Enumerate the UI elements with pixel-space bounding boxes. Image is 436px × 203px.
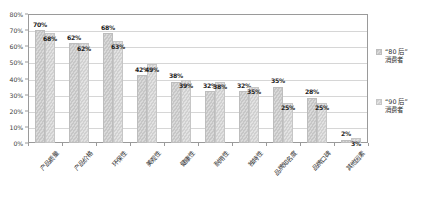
bar-value-label: 35% [271, 77, 285, 84]
bar-value-label: 49% [145, 66, 159, 73]
bar-value-label: 38% [213, 83, 227, 90]
bar-value-label: 38% [169, 72, 183, 79]
bar-80hou[interactable] [35, 30, 45, 143]
legend-entry-80hou[interactable]: “80 后” 消费者 [376, 48, 408, 64]
bar-value-label: 68% [43, 35, 57, 42]
bar-group: 2%3% [334, 14, 368, 143]
y-tick-label: 10% [10, 123, 23, 130]
bar-90hou[interactable] [215, 82, 225, 143]
x-axis-label: 独特性 [246, 149, 265, 168]
bar-90hou[interactable] [181, 80, 191, 143]
x-tick-mark [164, 143, 165, 146]
legend-swatch-icon [376, 49, 382, 55]
bar-value-label: 68% [101, 24, 115, 31]
x-tick-mark [96, 143, 97, 146]
bar-group: 70%68% [28, 14, 62, 143]
bar-group: 62%62% [62, 14, 96, 143]
bar-value-label: 62% [67, 34, 81, 41]
bar-group: 28%25% [300, 14, 334, 143]
x-axis-label: 其他因素 [344, 149, 367, 173]
bar-80hou[interactable] [171, 82, 181, 143]
bar-value-label: 25% [315, 104, 329, 111]
x-axis-label: 品牌口碑 [310, 149, 333, 173]
bar-group: 68%63% [96, 14, 130, 143]
y-tick-label: 70% [10, 27, 23, 34]
bar-group: 35%25% [266, 14, 300, 143]
bar-value-label: 62% [77, 45, 91, 52]
legend-label: “90 后” 消费者 [385, 98, 408, 114]
x-tick-mark [300, 143, 301, 146]
bar-group: 32%38% [198, 14, 232, 143]
x-tick-mark [266, 143, 267, 146]
bar-90hou[interactable] [45, 33, 55, 143]
bar-value-label: 35% [247, 88, 261, 95]
x-tick-mark [62, 143, 63, 146]
bar-90hou[interactable] [147, 64, 157, 143]
bar-group: 42%49% [130, 14, 164, 143]
x-axis-label: 环保性 [110, 149, 129, 168]
legend-label: “80 后” 消费者 [385, 48, 408, 64]
bar-value-label: 28% [305, 88, 319, 95]
x-axis-label: 美观性 [144, 149, 163, 168]
y-tick-label: 0% [13, 140, 23, 147]
bar-90hou[interactable] [113, 41, 123, 143]
x-tick-mark [198, 143, 199, 146]
bars-layer: 70%68%62%62%68%63%42%49%38%39%32%38%32%3… [28, 14, 368, 143]
y-tick-label: 30% [10, 91, 23, 98]
bar-value-label: 2% [341, 130, 351, 137]
x-axis-label: 健康性 [178, 149, 197, 168]
legend-entry-90hou[interactable]: “90 后” 消费者 [376, 98, 408, 114]
bar-group: 38%39% [164, 14, 198, 143]
y-tick-label: 80% [10, 11, 23, 18]
chart-legend: “80 后” 消费者“90 后” 消费者 [376, 14, 436, 143]
x-axis-label: 品牌知名度 [272, 149, 299, 177]
bar-90hou[interactable] [79, 43, 89, 143]
grouped-bar-chart: 0%10%20%30%40%50%60%70%80% 70%68%62%62%6… [0, 0, 436, 203]
x-tick-mark [28, 143, 29, 146]
bar-value-label: 39% [179, 82, 193, 89]
x-axis-label: 耐用性 [212, 149, 231, 168]
bar-80hou[interactable] [273, 87, 283, 143]
y-tick-label: 50% [10, 59, 23, 66]
bar-80hou[interactable] [205, 91, 215, 143]
legend-swatch-icon [376, 99, 382, 105]
x-axis: 产品质量产品价格环保性美观性健康性耐用性独特性品牌知名度品牌口碑其他因素 [28, 143, 368, 203]
x-axis-label: 产品质量 [38, 149, 61, 173]
y-tick-label: 40% [10, 75, 23, 82]
y-tick-label: 60% [10, 43, 23, 50]
x-axis-label: 产品价格 [72, 149, 95, 173]
bar-group: 32%35% [232, 14, 266, 143]
x-tick-mark [232, 143, 233, 146]
y-axis: 0%10%20%30%40%50%60%70%80% [0, 14, 28, 143]
bar-value-label: 25% [281, 104, 295, 111]
bar-80hou[interactable] [69, 43, 79, 143]
bar-80hou[interactable] [137, 75, 147, 143]
x-tick-mark [130, 143, 131, 146]
y-tick-label: 20% [10, 107, 23, 114]
bar-value-label: 63% [111, 43, 125, 50]
bar-80hou[interactable] [239, 91, 249, 143]
x-tick-mark [334, 143, 335, 146]
bar-value-label: 70% [33, 21, 47, 28]
x-tick-mark [368, 143, 369, 146]
